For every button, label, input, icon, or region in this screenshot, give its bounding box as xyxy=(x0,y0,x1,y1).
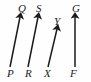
vector-head-label-y: Y xyxy=(54,16,60,27)
vector-tail-label-f: F xyxy=(70,68,77,79)
vector-tail-label-p: P xyxy=(7,68,14,79)
vector-arrow-pq xyxy=(10,17,20,67)
vector-head-label-g: G xyxy=(72,3,80,14)
vector-arrow-xy xyxy=(48,29,57,67)
vector-head-label-s: S xyxy=(36,3,42,14)
vector-arrow-rs xyxy=(28,17,38,67)
vector-diagram: P R X F Q S Y G xyxy=(0,0,91,82)
vector-head-label-q: Q xyxy=(18,3,26,14)
vector-tail-label-r: R xyxy=(25,68,32,79)
vector-tail-label-x: X xyxy=(44,68,51,79)
